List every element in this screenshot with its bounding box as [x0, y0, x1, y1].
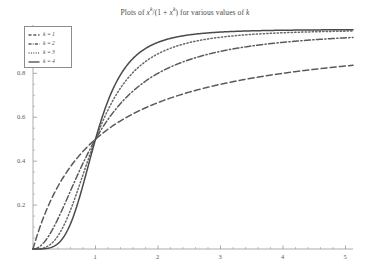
chart-legend: k = 1k = 2k = 3k = 4	[24, 26, 72, 68]
chart-title: Plots of xk/(1 + xk) for various values …	[0, 6, 370, 17]
legend-line-swatch	[28, 32, 40, 38]
x-tick-label: 5	[344, 253, 347, 260]
title-mid: /(1 +	[153, 8, 170, 17]
plot-area	[33, 25, 353, 249]
title-var-k: k	[246, 8, 249, 17]
legend-rows: k = 1k = 2k = 3k = 4	[28, 30, 69, 66]
x-tick-label: 4	[281, 253, 284, 260]
legend-item-1: k = 1	[28, 30, 69, 39]
y-tick-label: 0.6	[17, 113, 25, 120]
x-tick-label: 2	[156, 253, 159, 260]
legend-line-swatch	[28, 41, 40, 47]
x-tick-label: 1	[94, 253, 97, 260]
legend-item-label: k = 2	[43, 41, 55, 47]
y-tick-label: 0.2	[17, 201, 25, 208]
legend-item-3: k = 3	[28, 48, 69, 57]
legend-line-swatch	[28, 50, 40, 56]
title-prefix: Plots of	[121, 8, 147, 17]
x-tick-label: 3	[219, 253, 222, 260]
legend-item-label: k = 4	[43, 59, 55, 65]
legend-item-label: k = 3	[43, 50, 55, 56]
legend-item-label: k = 1	[43, 32, 55, 38]
legend-line-swatch	[28, 59, 40, 65]
y-tick-label: 0.4	[17, 157, 25, 164]
legend-item-2: k = 2	[28, 39, 69, 48]
title-suffix: ) for various values of	[175, 8, 246, 17]
chart-figure: Plots of xk/(1 + xk) for various values …	[0, 0, 370, 278]
y-tick-label: 0.8	[17, 69, 25, 76]
axes-and-curves	[33, 25, 353, 249]
legend-item-4: k = 4	[28, 57, 69, 66]
